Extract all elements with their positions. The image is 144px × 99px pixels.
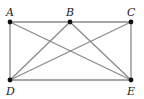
point-b — [68, 20, 73, 25]
point-label-e: E — [126, 85, 135, 98]
point-e — [129, 78, 134, 83]
point-d — [8, 78, 13, 83]
segment-bd — [10, 22, 70, 80]
point-label-c: C — [127, 6, 136, 19]
point-a — [8, 20, 13, 25]
point-label-a: A — [5, 6, 14, 19]
geometry-diagram: ABCDE — [0, 0, 144, 99]
edges-group — [10, 22, 131, 80]
point-label-d: D — [5, 85, 15, 98]
point-c — [129, 20, 134, 25]
point-label-b: B — [65, 6, 74, 19]
segment-be — [70, 22, 131, 80]
